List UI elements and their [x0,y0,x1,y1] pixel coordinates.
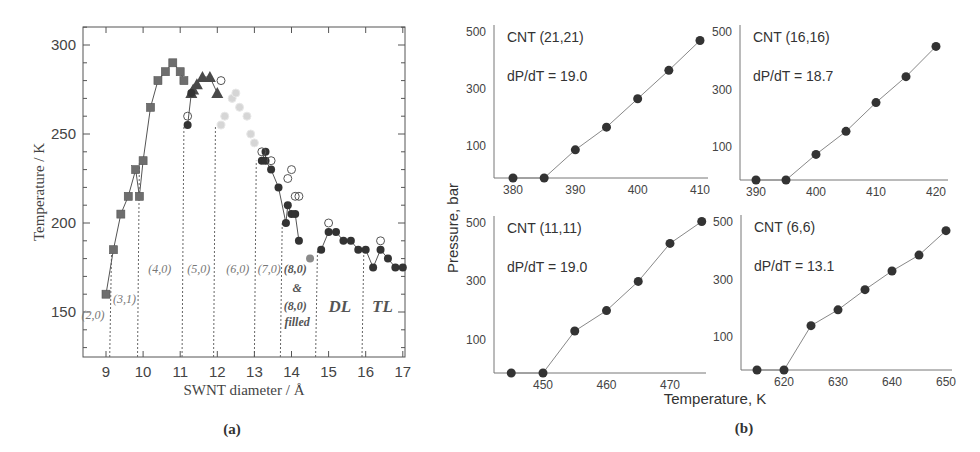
data-point-circle [267,166,275,174]
data-point-square [176,68,184,76]
y-axis-label: Temperature / K [31,143,47,241]
data-point-square [124,192,132,200]
data-point-square [161,68,169,76]
data-point-circle-light [243,112,251,120]
slope-label: dP/dT = 19.0 [507,68,588,84]
x-tick-label: 620 [774,375,794,389]
data-point [664,66,673,75]
data-point-circle [339,237,347,245]
data-point [696,36,705,45]
panel-b-pressure-plots: 100300500380390400410CNT (21,21)dP/dT = … [444,25,956,437]
x-axis-label: SWNT diameter / Å [184,382,305,398]
temperature-axis-label: Temperature, K [664,390,767,407]
region-label: (8,0) [284,262,307,276]
data-point-circle [282,219,290,227]
subplot-title: CNT (6,6) [754,219,815,235]
x-tick-label: 410 [866,185,886,199]
y-tick-label: 300 [466,82,486,96]
data-point [902,72,911,81]
y-tick-label: 500 [713,215,733,229]
data-point-triangle [211,87,223,98]
x-tick-label: 640 [882,375,902,389]
region-label: (7,0) [258,262,281,276]
data-point-square [154,77,162,85]
data-point [666,239,675,248]
region-label: (6,0) [226,262,249,276]
divider-line [254,161,256,357]
region-label: (3,1) [113,292,136,306]
data-point-circle-open [184,112,192,120]
data-point [507,369,516,378]
region-label: (4,0) [148,262,171,276]
data-point-circle-open [217,77,225,85]
y-tick-label: 300 [713,273,733,287]
x-tick-label: 16 [357,363,374,380]
data-point [915,251,924,260]
slope-label: dP/dT = 13.1 [754,258,835,274]
region-label: (2,0) [82,308,105,322]
subplot-title: CNT (21,21) [507,29,584,45]
y-tick-label: 200 [51,214,76,231]
data-point-circle [184,121,192,129]
region-label: DL [327,297,351,316]
figure: 91011121314151617150200250300 (2,0)(3,1)… [0,0,980,452]
data-point-circle [399,264,407,272]
data-point-circle [332,228,340,236]
x-tick-label: 450 [533,378,553,392]
data-point [509,174,518,183]
y-tick-label: 500 [712,25,732,39]
y-tick-label: 300 [51,36,76,53]
data-point [570,327,579,336]
data-point [633,94,642,103]
region-labels: (2,0)(3,1)(4,0)(5,0)(6,0)(7,0)(8,0)&(8,0… [82,262,393,329]
data-point-circle-open [288,166,296,174]
slope-label: dP/dT = 19.0 [507,259,588,275]
data-point-circle [347,237,355,245]
x-tick-label: 460 [596,378,616,392]
data-point-square [117,210,125,218]
data-point [602,306,611,315]
y-tick-label: 100 [466,333,486,347]
data-point [888,266,897,275]
axis-ticks: 91011121314151617150200250300 [51,27,411,380]
data-point-circle-open [377,237,385,245]
data-point-circle [391,264,399,272]
x-tick-label: 10 [135,363,152,380]
data-point-circle [369,264,377,272]
x-tick-label: 13 [246,363,263,380]
data-point-square [147,103,155,111]
x-tick-label: 12 [209,363,226,380]
data-point [697,217,706,226]
data-point [782,176,791,185]
region-label: & [292,281,302,295]
y-tick-label: 150 [51,303,76,320]
data-point-circle [325,228,333,236]
panel-b-label: (b) [735,420,753,437]
y-tick-label: 100 [466,139,486,153]
data-point-circle-light [250,139,258,147]
data-point [942,226,951,235]
subplot-6-6: 100300500620630640650CNT (6,6)dP/dT = 13… [713,215,956,389]
y-tick-label: 250 [51,125,76,142]
data-point-square [180,77,188,85]
divider-line [362,250,364,357]
data-point-circle [317,246,325,254]
data-point-circle-open [325,219,333,227]
data-point-square [139,157,147,165]
x-tick-label: 400 [628,183,648,197]
subplot-21-21: 100300500380390400410CNT (21,21)dP/dT = … [466,25,710,197]
data-point [872,98,881,107]
data-point-square [102,290,110,298]
data-point-circle-light [221,112,229,120]
data-point-circle [384,255,392,263]
data-point [842,127,851,136]
data-point-square [135,192,143,200]
data-point-circle-light [236,103,244,111]
data-lines [106,63,403,294]
divider-line [316,250,318,357]
data-point-circle [187,89,195,97]
pressure-axis-label: Pressure, bar [444,183,461,273]
data-point [807,321,816,330]
data-point-circle [354,246,362,254]
data-point-square [132,166,140,174]
